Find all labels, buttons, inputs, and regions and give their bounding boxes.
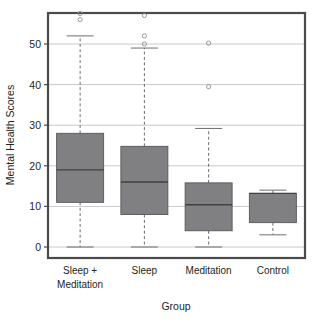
boxplot-svg: 01020304050 Sleep +MeditationSleepMedita… [0,0,318,321]
box-iqr [185,183,232,231]
y-tick-label: 0 [35,241,41,253]
box-iqr [121,146,168,214]
category-label: Meditation [186,265,232,276]
box-iqr [249,193,296,222]
y-axis-title: Mental Health Scores [4,85,16,185]
boxplot-figure: 01020304050 Sleep +MeditationSleepMedita… [0,0,318,321]
x-axis-title: Group [161,300,190,312]
box-iqr [57,133,104,202]
y-tick-label: 10 [29,200,41,212]
category-label: Control [257,265,289,276]
category-label-line2: Meditation [57,279,103,290]
y-tick-label: 50 [29,38,41,50]
category-label: Sleep [132,265,158,276]
y-tick-label: 30 [29,119,41,131]
category-label: Sleep + [63,265,97,276]
y-tick-label: 20 [29,160,41,172]
y-tick-label: 40 [29,79,41,91]
